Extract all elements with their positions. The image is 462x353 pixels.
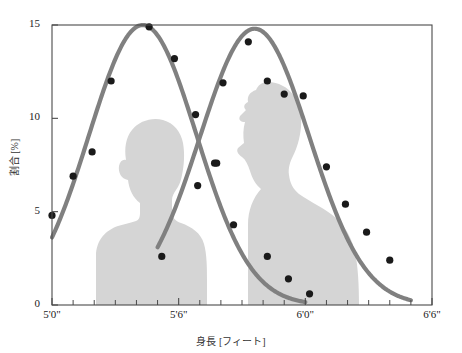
- data-point-female: [264, 253, 271, 260]
- chart-figure: 割合 [%] 身長 [フィート] 15 10 5 0 5'0" 5'6" 6'0…: [0, 0, 462, 353]
- data-point-female: [70, 173, 77, 180]
- plot-canvas: [0, 0, 462, 353]
- data-point-female: [285, 275, 292, 282]
- data-point-male: [158, 253, 165, 260]
- data-point-male: [323, 163, 330, 170]
- data-point-male: [281, 90, 288, 97]
- data-point-male: [363, 229, 370, 236]
- data-point-male: [194, 182, 201, 189]
- data-point-male: [300, 92, 307, 99]
- data-point-female: [89, 148, 96, 155]
- silhouette-group: [96, 82, 359, 305]
- data-point-female: [108, 77, 115, 84]
- data-point-female: [171, 55, 178, 62]
- data-point-female: [192, 111, 199, 118]
- data-point-male: [342, 201, 349, 208]
- data-point-female: [306, 290, 313, 297]
- data-point-male: [245, 38, 252, 45]
- data-point-female: [146, 23, 153, 30]
- data-point-male: [264, 77, 271, 84]
- data-point-male: [386, 257, 393, 264]
- female-silhouette: [96, 119, 207, 305]
- data-point-male: [219, 79, 226, 86]
- data-point-male: [213, 160, 220, 167]
- data-point-female: [230, 221, 237, 228]
